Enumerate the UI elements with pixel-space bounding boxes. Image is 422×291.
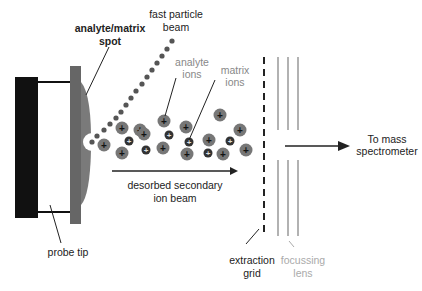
label-analyte-matrix-spot: analyte/matrix [75, 22, 146, 34]
svg-text:+: + [144, 146, 149, 155]
label-lens: lens [293, 267, 312, 279]
svg-text:+: + [127, 137, 132, 146]
label-matrix-ions: ions [225, 76, 244, 88]
label-grid: grid [243, 267, 261, 279]
svg-text:+: + [167, 131, 172, 140]
svg-text:+: + [101, 140, 107, 151]
grid-leader-line [246, 229, 259, 244]
svg-text:+: + [206, 149, 211, 158]
svg-text:+: + [243, 145, 249, 156]
label-desorbed: desorbed secondary [127, 179, 223, 191]
probe-body [15, 77, 38, 218]
label-ion-beam: ion beam [153, 192, 196, 204]
probe-plate [70, 66, 81, 224]
analyte-ions: + + + + + + + + + + + + + + [98, 109, 253, 161]
matrix-ions-leader-line [189, 80, 215, 140]
svg-text:+: + [206, 135, 212, 146]
svg-text:+: + [160, 143, 166, 154]
output-arrowhead [338, 141, 350, 151]
label-fast-particle: fast particle [149, 8, 203, 20]
fab-diagram: + + + + + + + + + + + + + + + + + + + + [0, 0, 422, 291]
spot-leader-line [86, 47, 109, 95]
svg-text:+: + [237, 125, 243, 136]
label-extraction: extraction [229, 254, 275, 266]
svg-text:+: + [184, 149, 190, 160]
svg-text:+: + [119, 123, 125, 134]
label-probe-tip: probe tip [48, 246, 89, 258]
svg-text:+: + [183, 122, 189, 133]
label-beam: beam [163, 21, 190, 33]
label-to-mass: To mass [367, 133, 406, 145]
label-analyte-ions: ions [182, 68, 201, 80]
svg-text:+: + [228, 137, 233, 146]
probe-tip-leader-line [50, 205, 61, 243]
svg-text:+: + [217, 110, 223, 121]
svg-text:+: + [220, 149, 226, 160]
svg-text:+: + [141, 129, 147, 140]
svg-text:+: + [119, 148, 125, 159]
lens-leader-line [289, 241, 294, 247]
analyte-ions-leader-line [165, 78, 176, 116]
label-matrix: matrix [221, 64, 250, 76]
svg-text:+: + [161, 116, 167, 127]
fast-particle-beam [89, 38, 174, 144]
desorbed-beam-arrowhead [230, 167, 238, 175]
label-spot: spot [99, 35, 122, 47]
label-spectrometer: spectrometer [356, 145, 418, 157]
label-focussing: focussing [281, 254, 326, 266]
label-analyte: analyte [175, 56, 209, 68]
